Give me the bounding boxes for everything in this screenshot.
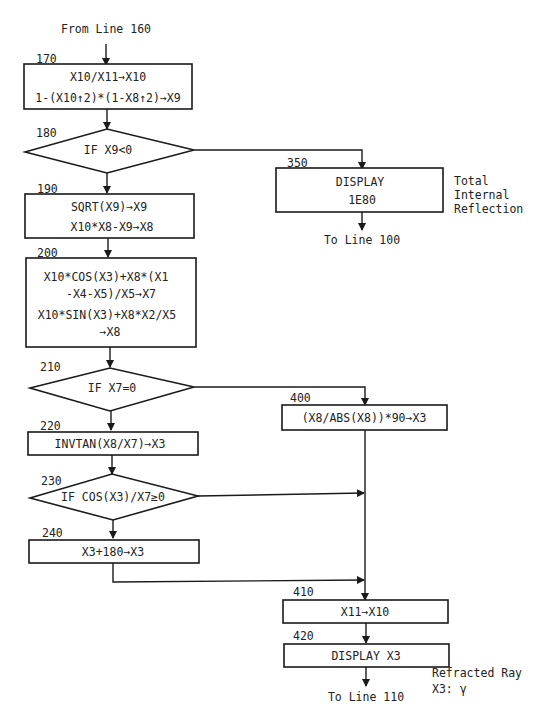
line-number-240: 240: [42, 526, 63, 540]
box-200-line-1: X10*COS(X3)+X8*(X1: [44, 270, 169, 284]
flowchart: From Line 160 To Line 100 To Line 110 17…: [0, 0, 547, 719]
box-350-line-2: 1E80: [348, 193, 376, 207]
box-170-line-2: 1-(X10↑2)*(1-X8↑2)→X9: [35, 91, 180, 105]
box-400-text: (X8/ABS(X8))*90→X3: [302, 411, 427, 425]
line-number-190: 190: [37, 182, 58, 196]
box-350-line-1: DISPLAY: [336, 175, 385, 189]
line-number-420: 420: [293, 629, 314, 643]
box-190-line-2: X10*X8-X9→X8: [70, 220, 153, 234]
line-number-230: 230: [41, 474, 62, 488]
box-420-text: DISPLAY X3: [331, 649, 400, 663]
box-200-line-4: →X8: [100, 325, 121, 339]
line-number-180: 180: [36, 126, 57, 140]
box-410-text: X11→X10: [341, 605, 390, 619]
annotation-350-line-3: Reflection: [454, 202, 523, 216]
connector-end-350: To Line 100: [324, 233, 400, 247]
annotation-420-line-2: X3: γ: [432, 682, 467, 696]
annotation-350-line-1: Total: [454, 174, 489, 188]
line-number-220: 220: [40, 419, 61, 433]
line-number-210: 210: [40, 360, 61, 374]
line-number-400: 400: [290, 391, 311, 405]
box-170-line-1: X10/X11→X10: [70, 70, 146, 84]
edge-210-400: [194, 387, 365, 405]
connector-start: From Line 160: [61, 22, 151, 36]
line-number-410: 410: [293, 585, 314, 599]
box-220-text: INVTAN(X8/X7)→X3: [55, 437, 166, 451]
line-number-350: 350: [287, 156, 308, 170]
annotation-350-line-2: Internal: [454, 188, 509, 202]
box-200-line-3: X10*SIN(X3)+X8*X2/X5: [38, 308, 176, 322]
edge-180-350: [194, 150, 362, 169]
annotation-420-line-1: Refracted Ray: [432, 666, 522, 680]
connector-end-420: To Line 110: [328, 690, 404, 704]
diamond-210-text: IF X7=0: [88, 381, 137, 395]
diamond-230-text: IF COS(X3)/X7≥0: [61, 490, 165, 504]
box-240-text: X3+180→X3: [82, 545, 144, 559]
box-200-line-2: -X4-X5)/X5→X7: [66, 287, 156, 301]
box-190-line-1: SQRT(X9)→X9: [71, 200, 147, 214]
edge-230-410: [198, 493, 364, 496]
labels: From Line 160 To Line 100 To Line 110 17…: [35, 22, 523, 704]
edge-240-410: [113, 563, 364, 582]
line-number-170: 170: [36, 52, 57, 66]
diamond-180-text: IF X9<0: [84, 143, 133, 157]
line-number-200: 200: [37, 246, 58, 260]
